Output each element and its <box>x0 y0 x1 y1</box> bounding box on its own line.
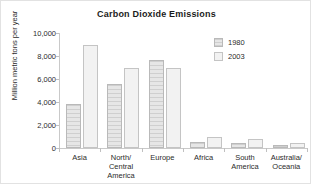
x-axis-tick-mark <box>183 148 184 152</box>
bar-2003 <box>290 143 305 148</box>
plot-area <box>59 33 307 148</box>
y-axis-tick-label: 0 <box>10 144 56 153</box>
bar-1980 <box>190 142 205 148</box>
x-axis-tick-mark <box>100 148 101 152</box>
bar-2003 <box>248 139 263 148</box>
bar-1980 <box>273 145 288 148</box>
bar-group <box>147 33 182 148</box>
y-axis-tick-label: 6,000 <box>10 75 56 84</box>
legend-label: 1980 <box>228 38 245 47</box>
bar-2003 <box>124 68 139 149</box>
bar-2003 <box>207 137 222 148</box>
bar-1980 <box>149 60 164 148</box>
y-axis-tick-label: 10,000 <box>10 29 56 38</box>
bar-group <box>64 33 99 148</box>
y-axis-tick-label: 8,000 <box>10 52 56 61</box>
x-axis-category-label: Australia/Oceania <box>260 153 311 171</box>
bar-1980 <box>66 104 81 148</box>
legend: 19802003 <box>214 37 245 65</box>
x-axis-tick-mark <box>224 148 225 152</box>
bar-chart: Carbon Dioxide Emissions Million metric … <box>0 0 311 184</box>
bar-2003 <box>83 45 98 149</box>
x-axis-tick-mark <box>59 148 60 152</box>
bar-2003 <box>166 68 181 148</box>
bar-1980 <box>231 143 246 148</box>
legend-item: 2003 <box>214 51 245 62</box>
bar-1980 <box>107 84 122 148</box>
legend-swatch <box>214 52 223 61</box>
chart-title: Carbon Dioxide Emissions <box>1 9 311 19</box>
x-axis-tick-mark <box>307 148 308 152</box>
y-axis-tick-label: 2,000 <box>10 121 56 130</box>
x-axis-tick-mark <box>142 148 143 152</box>
legend-item: 1980 <box>214 37 245 48</box>
bar-group <box>105 33 140 148</box>
legend-label: 2003 <box>228 52 245 61</box>
x-axis-tick-mark <box>266 148 267 152</box>
bar-group <box>271 33 306 148</box>
legend-swatch <box>214 38 223 47</box>
y-axis-tick-label: 4,000 <box>10 98 56 107</box>
